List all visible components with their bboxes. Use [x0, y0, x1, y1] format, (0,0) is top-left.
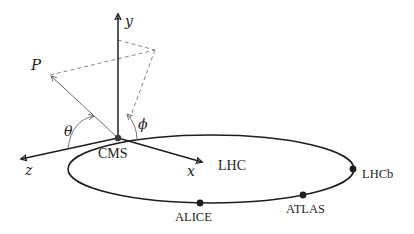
- atlas-marker: [300, 192, 307, 199]
- x-axis: [118, 138, 202, 162]
- lhc-label: LHC: [218, 158, 246, 173]
- z-axis-label: z: [24, 162, 33, 178]
- projection-dashed-lines: [50, 40, 155, 118]
- cms-marker: [115, 135, 121, 141]
- atlas-label: ATLAS: [286, 202, 325, 216]
- lhcb-marker: [350, 166, 357, 173]
- theta-label: θ: [64, 123, 73, 139]
- cms-label: CMS: [98, 146, 128, 161]
- vector-p-label: P: [30, 56, 42, 74]
- phi-label: ϕ: [138, 116, 148, 132]
- lhc-coordinate-diagram: y z x P θ ϕ CMS LHC ALICE ATLAS LHCb: [0, 0, 414, 234]
- lhcb-label: LHCb: [362, 167, 393, 181]
- phi-arc: [127, 114, 137, 140]
- x-axis-label: x: [187, 163, 195, 179]
- alice-label: ALICE: [175, 210, 212, 224]
- momentum-vector-p: [51, 76, 118, 138]
- y-axis-label: y: [124, 13, 134, 29]
- alice-marker: [197, 200, 204, 207]
